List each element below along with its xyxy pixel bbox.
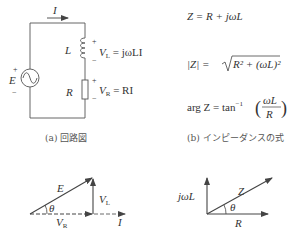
circuit-wire <box>30 23 85 38</box>
vr-equation: VR = RI <box>99 84 133 98</box>
argument-formula: arg Z = tan−1 <box>187 100 243 113</box>
left-paren: ( <box>255 98 261 119</box>
resistor-icon <box>82 80 88 99</box>
voltage-phasor-diagram <box>30 178 125 214</box>
source-minus: − <box>12 88 17 97</box>
theta-label-voltage: θ <box>49 202 55 214</box>
inductor-coil-icon <box>81 38 86 60</box>
vr-phasor-label: VR <box>56 216 68 230</box>
r-phasor-label: R <box>234 217 242 229</box>
caption-formulas: (b) インピーダンスの式 <box>187 132 284 143</box>
e-label: E <box>56 182 64 194</box>
circuit-wire <box>30 87 85 118</box>
source-label: E <box>8 74 16 86</box>
impedance-magnitude-rhs: R² + (ωL)² <box>232 58 281 71</box>
right-paren: ) <box>281 98 287 119</box>
theta-arc <box>45 205 47 214</box>
jwl-label: jωL <box>176 190 195 202</box>
impedance-magnitude-lhs: |Z| = <box>187 58 209 70</box>
impedance-definition: Z = R + jωL <box>187 10 243 22</box>
resistor-label: R <box>65 86 73 98</box>
vl-plus: + <box>92 37 97 46</box>
caption-circuit: (a) 回路図 <box>45 132 87 143</box>
inductor-label: L <box>64 44 71 56</box>
current-label: I <box>52 4 58 16</box>
arg-numerator: ωL <box>263 94 277 106</box>
sine-wave-icon <box>23 73 37 84</box>
diagram-canvas: I E + − L R + − + − VL = jωLI VR = RI (a… <box>0 0 294 240</box>
vr-minus: − <box>92 94 97 103</box>
circuit-diagram <box>21 18 88 118</box>
vl-minus: − <box>92 56 97 65</box>
vr-plus: + <box>92 76 97 85</box>
vl-phasor-label: VL <box>99 193 110 207</box>
z-label: Z <box>238 185 245 197</box>
i-phasor-label: I <box>117 216 123 228</box>
vl-equation: VL = jωLI <box>99 46 143 60</box>
theta-arc <box>224 205 226 214</box>
theta-label-impedance: θ <box>230 201 236 213</box>
arg-denominator: R <box>265 108 273 120</box>
source-plus: + <box>13 65 18 74</box>
